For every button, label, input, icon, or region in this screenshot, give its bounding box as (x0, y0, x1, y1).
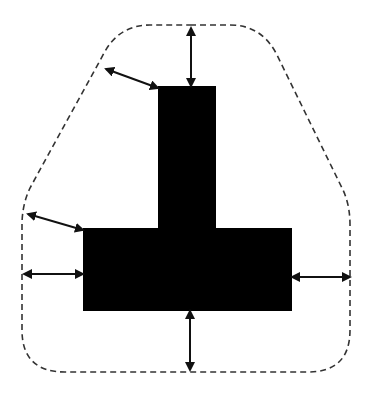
clearance-diagram (0, 0, 375, 401)
top-left-diagonal-clearance-arrow-icon (106, 69, 158, 88)
t-shape-stem (158, 86, 216, 228)
t-shape-bar (83, 228, 292, 311)
t-shaped-object (83, 86, 292, 311)
left-diagonal-clearance-arrow-icon (28, 214, 83, 230)
